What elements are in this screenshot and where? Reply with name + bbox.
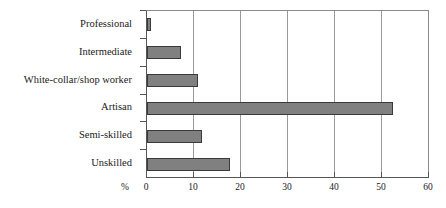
y-axis-tick — [140, 66, 146, 67]
y-axis-tick — [140, 149, 146, 150]
category-label: Artisan — [0, 102, 132, 113]
gridline-20 — [240, 11, 241, 178]
x-axis-tick — [428, 172, 429, 178]
category-label: Intermediate — [0, 47, 132, 58]
y-axis-tick — [140, 10, 146, 11]
gridline-40 — [334, 11, 335, 178]
gridline-60 — [428, 11, 429, 178]
x-axis-tick-label: 40 — [321, 183, 347, 193]
x-axis-tick-label: 30 — [274, 183, 300, 193]
category-label: Unskilled — [0, 158, 132, 169]
x-axis-tick-label: 50 — [368, 183, 394, 193]
bar — [147, 102, 393, 115]
x-axis-tick-label: 20 — [227, 183, 253, 193]
x-axis-tick — [240, 172, 241, 178]
x-axis-tick-label: 0 — [133, 183, 159, 193]
x-axis-tick-label: 60 — [415, 183, 441, 193]
gridline-50 — [381, 11, 382, 178]
x-axis-unit-label: % — [121, 183, 129, 193]
bar — [147, 158, 230, 171]
category-label: Semi-skilled — [0, 130, 132, 141]
category-label: Professional — [0, 19, 132, 30]
plot-area — [146, 10, 429, 178]
gridline-30 — [287, 11, 288, 178]
horizontal-bar-chart: ProfessionalIntermediateWhite-collar/sho… — [0, 0, 446, 208]
category-axis-labels: ProfessionalIntermediateWhite-collar/sho… — [0, 10, 139, 177]
bar — [147, 74, 198, 87]
bar — [147, 130, 202, 143]
y-axis-tick — [140, 121, 146, 122]
x-axis-tick — [193, 172, 194, 178]
y-axis-tick — [140, 38, 146, 39]
x-axis-tick-label: 10 — [180, 183, 206, 193]
gridline-10 — [193, 11, 194, 178]
y-axis-tick — [140, 94, 146, 95]
x-axis-tick — [334, 172, 335, 178]
category-label: White-collar/shop worker — [0, 75, 132, 86]
x-axis-tick — [381, 172, 382, 178]
bar — [147, 46, 181, 59]
x-axis-tick — [287, 172, 288, 178]
bar — [147, 18, 151, 31]
x-axis-tick — [146, 172, 147, 178]
